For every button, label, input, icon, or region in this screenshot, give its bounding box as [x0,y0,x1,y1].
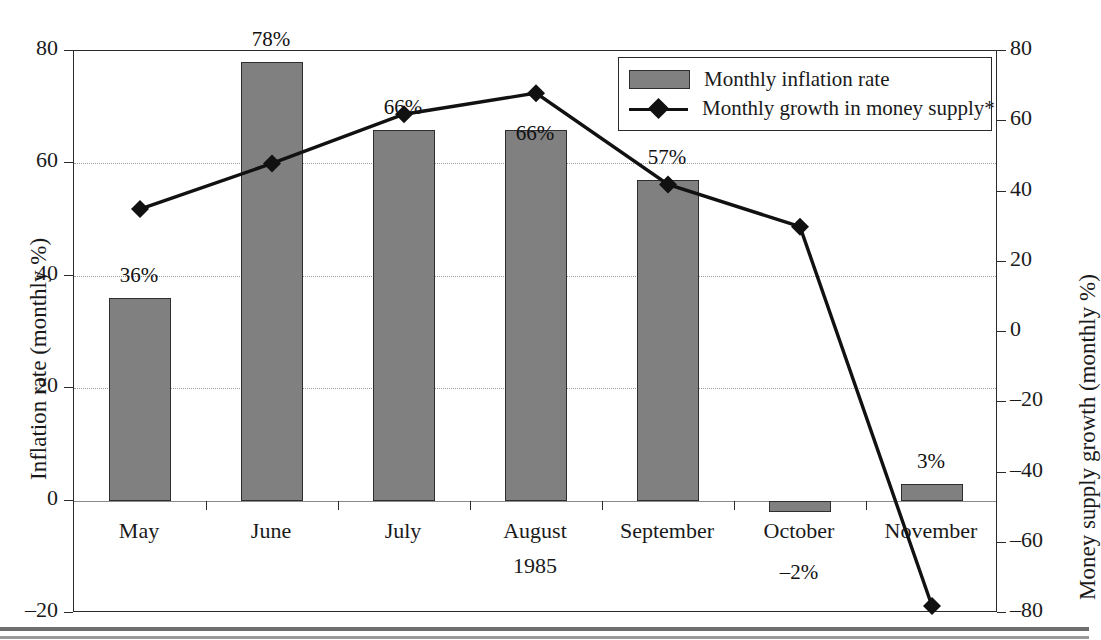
right-tick-label-4: 0 [1010,316,1021,342]
legend-bar-label: Monthly inflation rate [704,67,889,92]
x-axis-group-label: 1985 [513,553,557,579]
line-marker-june [263,154,281,172]
legend-line-swatch [629,100,688,117]
bar-label-august: 66% [516,121,555,146]
right-tick-label-1: 60 [1010,105,1032,131]
x-label-june: June [251,518,291,544]
bar-label-september: 57% [648,145,687,170]
right-tick-mark-1 [997,120,1006,121]
right-axis-title: Money supply growth (monthly %) [1075,274,1101,600]
bar-label-october: –2% [780,560,819,585]
legend-diamond-marker [648,98,669,119]
x-tick-mark-6 [866,501,867,510]
line-marker-october [791,218,809,236]
legend-item-bars: Monthly inflation rate [629,65,979,94]
line-marker-november [923,597,941,615]
right-tick-mark-3 [997,261,1006,262]
bar-label-november: 3% [917,449,945,474]
footer-rule [0,627,1089,631]
right-tick-label-8: –80 [1010,597,1043,623]
x-label-august: August [503,518,567,544]
legend-item-line: Monthly growth in money supply* [629,94,979,123]
x-label-october: October [764,518,835,544]
left-tick-label-4: 0 [0,485,58,511]
right-tick-mark-7 [997,542,1006,543]
x-tick-mark-4 [602,501,603,510]
legend-line-label: Monthly growth in money supply* [702,96,995,121]
left-tick-mark-3 [64,387,73,388]
right-tick-label-2: 40 [1010,176,1032,202]
bar-label-july: 66% [384,95,423,120]
right-tick-mark-0 [997,50,1006,51]
right-tick-label-5: –20 [1010,386,1043,412]
left-tick-mark-5 [64,612,73,613]
right-tick-label-6: –40 [1010,457,1043,483]
right-tick-mark-4 [997,331,1006,332]
bottom-rule [0,636,1089,639]
left-tick-mark-0 [64,50,73,51]
line-marker-may [131,200,149,218]
chart-legend: Monthly inflation rate Monthly growth in… [618,57,992,131]
right-tick-mark-6 [997,472,1006,473]
bar-label-june: 78% [252,27,291,52]
left-tick-label-0: 80 [0,35,58,61]
left-tick-mark-4 [64,500,73,501]
left-tick-mark-2 [64,275,73,276]
x-tick-mark-5 [734,501,735,510]
left-tick-label-3: 20 [0,372,58,398]
right-tick-mark-5 [997,401,1006,402]
x-label-september: September [620,518,714,544]
x-label-may: May [119,518,159,544]
left-tick-mark-1 [64,162,73,163]
legend-bar-swatch [629,70,690,89]
right-tick-label-3: 20 [1010,246,1032,272]
x-label-july: July [385,518,422,544]
left-tick-label-2: 40 [0,260,58,286]
left-tick-label-5: –20 [0,597,58,623]
right-tick-label-7: –60 [1010,527,1043,553]
right-tick-mark-2 [997,191,1006,192]
x-tick-mark-3 [470,501,471,510]
bar-label-may: 36% [120,263,159,288]
x-label-november: November [885,518,978,544]
left-tick-label-1: 60 [0,147,58,173]
x-tick-mark-1 [206,501,207,510]
right-tick-label-0: 80 [1010,35,1032,61]
right-tick-mark-8 [997,612,1006,613]
x-tick-mark-2 [338,501,339,510]
